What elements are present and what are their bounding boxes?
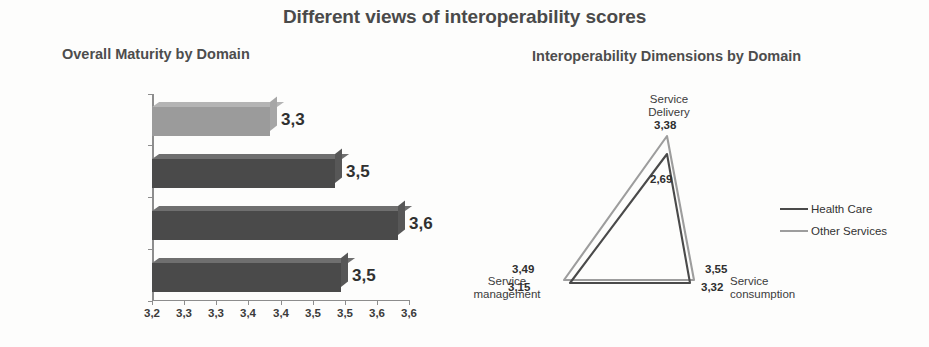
bar-row[interactable]: Health Care 3,5 [152,258,348,292]
bar-shape [152,154,342,188]
bar-row[interactable]: Base Resistries Related 3,5 [152,154,342,188]
bar-value-label: 3,5 [352,266,376,286]
radar-chart-title: Interoperability Dimensions by Domain [532,48,801,64]
x-tick-mark [345,301,346,305]
bar-value-label: 3,6 [409,214,433,234]
figure-title: Different views of interoperability scor… [0,6,929,28]
bar-front-face [152,159,335,188]
x-tick-label: 3,5 [305,307,321,319]
radar-axis-label-line2: management [473,288,540,300]
bar-side-face [398,201,405,235]
x-tick-mark [281,301,282,305]
radar-axis-label-line2: Delivery [648,106,690,118]
bar-side-face [270,97,277,131]
bar-chart: Grand Total 3,3 Base Resistries Related … [0,80,460,335]
x-tick-label: 3,4 [273,307,289,319]
bar-chart-x-ticks: 3,2 3,3 3,3 3,4 3,4 3,5 3,5 3,6 3,6 [152,301,410,321]
x-tick-label: 3,6 [369,307,385,319]
x-tick-mark [313,301,314,305]
radar-axis-label-line1: Service [650,93,688,105]
radar-value-service-consumption-health: 3,32 [701,281,723,293]
bar-row[interactable]: Other 3,6 [152,206,405,240]
bar-side-face [335,149,342,183]
x-tick-mark [377,301,378,305]
radar-axis-label-service-consumption: Service consumption [730,275,824,301]
radar-value-service-delivery-other: 3,38 [654,119,676,131]
bar-chart-plot-area: Grand Total 3,3 Base Resistries Related … [152,94,410,299]
legend-item-label: Other Services [811,225,887,237]
bar-row[interactable]: Grand Total 3,3 [152,102,277,136]
radar-chart: Service Delivery 3,38 2,69 3,49 3,15 Ser… [462,80,929,335]
x-tick-mark [152,301,153,305]
bar-shape [152,258,348,292]
legend-line-icon [780,208,808,210]
bar-value-label: 3,5 [346,162,370,182]
radar-axis-label-service-delivery: Service Delivery [638,93,700,119]
x-tick-mark [184,301,185,305]
radar-axis-label-line2: consumption [730,288,795,300]
x-tick-mark [409,301,410,305]
x-tick-mark [248,301,249,305]
radar-axis-label-line1: Service [730,275,768,287]
radar-value-service-consumption-other: 3,55 [705,263,727,275]
x-tick-label: 3,4 [240,307,256,319]
legend-item-health-care[interactable]: Health Care [780,198,887,220]
bar-value-label: 3,3 [281,110,305,130]
legend-line-icon [780,230,808,232]
x-tick-label: 3,6 [401,307,417,319]
x-tick-mark [216,301,217,305]
radar-chart-legend: Health Care Other Services [780,198,887,242]
x-tick-label: 3,3 [208,307,224,319]
x-tick-label: 3,5 [337,307,353,319]
bar-front-face [152,263,341,292]
bar-chart-title: Overall Maturity by Domain [62,46,250,62]
radar-axis-label-service-management: Service management [464,275,550,301]
legend-item-label: Health Care [811,203,872,215]
bar-shape [152,206,405,240]
bar-shape [152,102,277,136]
radar-series-other-services[interactable] [564,136,694,280]
bar-front-face [152,107,270,136]
bar-side-face [341,253,348,287]
radar-value-service-management-other: 3,49 [512,263,534,275]
legend-item-other-services[interactable]: Other Services [780,220,887,242]
radar-value-service-delivery-health: 2,69 [650,173,672,185]
bar-front-face [152,211,398,240]
x-tick-label: 3,2 [144,307,160,319]
chart-figure: Different views of interoperability scor… [0,0,929,347]
radar-axis-label-line1: Service [488,275,526,287]
x-tick-label: 3,3 [176,307,192,319]
